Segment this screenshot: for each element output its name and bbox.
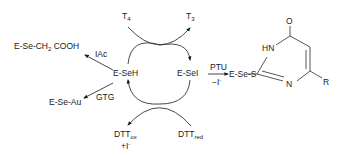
esei-node: E-SeI <box>177 68 198 78</box>
dttred-to-dttox-arrow <box>128 108 191 126</box>
ring-r-group: R <box>323 77 329 87</box>
ring-n: N <box>286 79 292 89</box>
ese-ch2cooh-product: E-Se-CH2 COOH <box>14 41 79 51</box>
iodide-release-label: +I- <box>121 141 130 151</box>
ptu-reagent: PTU <box>210 62 227 72</box>
minus-iodide-label: −I- <box>212 77 221 87</box>
t3-label: T3 <box>186 11 195 21</box>
ring-nh: HN <box>262 43 274 53</box>
eseh-to-esei-arrow <box>128 43 190 64</box>
dttred-label: DTTred <box>178 129 203 139</box>
ese-au-product: E-Se-Au <box>49 97 81 107</box>
deiodinase-reaction-diagram: T4 T3 E-SeH E-SeI E-Se-CH2 COOH IAc E-Se… <box>0 0 344 156</box>
dttox-label: DTTox <box>114 129 137 139</box>
ese-s-product: E-Se-S <box>229 69 256 79</box>
iac-reagent: IAc <box>95 49 107 59</box>
t4-label: T4 <box>122 11 131 21</box>
eseh-node: E-SeH <box>113 68 138 78</box>
esei-to-eseh-arrow <box>128 80 190 104</box>
t4-to-t3-arrow <box>128 27 190 45</box>
gtg-reagent: GTG <box>96 92 114 102</box>
pyrimidinone-ring <box>248 26 322 81</box>
ring-carbonyl-oxygen: O <box>286 16 293 26</box>
